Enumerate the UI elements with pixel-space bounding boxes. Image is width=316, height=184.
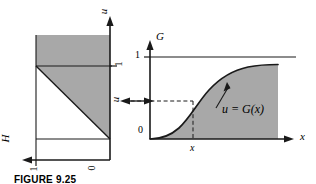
- right-axis-G-label: G: [156, 31, 164, 42]
- left-tick-label-one-lower: 1: [29, 167, 39, 172]
- figure-container: u H 1 1 0 G x 1 0 x u u = G(x) FIGURE 9.…: [0, 0, 316, 184]
- right-tick-label-one: 1: [135, 50, 140, 60]
- right-tick-label-x: x: [190, 143, 194, 153]
- right-curve-equation-label: u = G(x): [222, 103, 264, 115]
- figure-caption: FIGURE 9.25: [14, 174, 76, 184]
- left-panel-group: [22, 16, 117, 166]
- left-axis-u-label: u: [98, 9, 109, 15]
- right-u-measure-arrowhead-left: [120, 98, 130, 105]
- right-vertical-axis-arrowhead: [146, 40, 153, 50]
- left-horizontal-axis-arrowhead: [22, 156, 32, 163]
- right-axis-x-label: x: [300, 131, 305, 142]
- left-vertical-axis-arrowhead: [106, 16, 113, 26]
- right-tick-label-zero: 0: [138, 125, 143, 135]
- left-tick-label-zero: 0: [87, 166, 97, 171]
- right-u-measure-arrowhead-right: [144, 98, 154, 105]
- left-tick-label-one-upper: 1: [114, 62, 124, 67]
- right-bracket-label-u: u: [110, 97, 121, 103]
- figure-graphic: [0, 0, 316, 184]
- right-horizontal-axis-arrowhead: [284, 135, 294, 142]
- left-upper-shaded-block: [36, 35, 110, 66]
- right-panel-group: [120, 40, 296, 143]
- left-axis-H-label: H: [0, 135, 11, 143]
